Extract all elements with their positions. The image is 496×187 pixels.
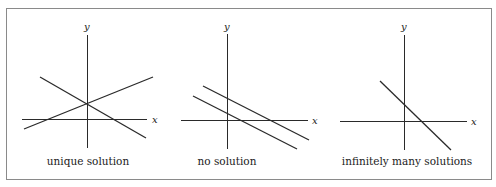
caption-no-solution: no solution bbox=[198, 155, 257, 167]
figure-frame bbox=[7, 9, 492, 180]
line-parallel-upper bbox=[203, 86, 309, 140]
line-coincident bbox=[380, 81, 451, 150]
line-parallel-lower bbox=[193, 96, 297, 149]
panel-unique-solution: x y unique solution bbox=[22, 21, 158, 167]
x-axis-label: x bbox=[312, 115, 318, 126]
x-axis-label: x bbox=[152, 114, 158, 125]
panel-infinitely-many-solutions: x y infinitely many solutions bbox=[340, 21, 477, 167]
line-rising bbox=[24, 77, 153, 129]
linear-systems-diagram: x y unique solution x y no solution x y … bbox=[0, 0, 496, 187]
y-axis-label: y bbox=[400, 21, 407, 32]
panel-no-solution: x y no solution bbox=[181, 21, 318, 167]
y-axis-label: y bbox=[83, 21, 90, 32]
caption-infinitely-many-solutions: infinitely many solutions bbox=[342, 155, 472, 167]
caption-unique-solution: unique solution bbox=[47, 155, 130, 167]
y-axis-label: y bbox=[223, 21, 230, 32]
x-axis-label: x bbox=[471, 116, 477, 127]
